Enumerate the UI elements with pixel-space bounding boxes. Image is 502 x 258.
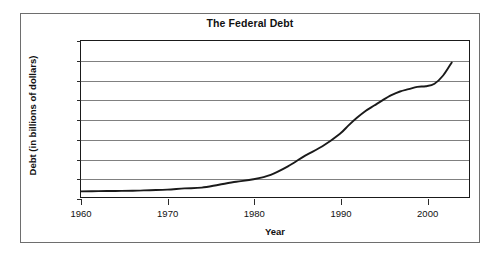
data-series-federal-debt bbox=[81, 41, 469, 197]
x-tick-mark bbox=[428, 199, 429, 205]
gridline bbox=[81, 160, 469, 161]
line-path-federal-debt bbox=[81, 62, 452, 191]
gridline bbox=[81, 140, 469, 141]
y-tick-mark bbox=[77, 160, 81, 161]
plot-area: 010002000300040005000600070008000 196019… bbox=[80, 40, 470, 198]
y-tick-mark bbox=[77, 81, 81, 82]
figure-chart-federal-debt: The Federal Debt Debt (in billions of do… bbox=[0, 0, 502, 258]
gridline bbox=[81, 61, 469, 62]
gridline bbox=[81, 81, 469, 82]
x-tick-label: 1980 bbox=[229, 209, 279, 219]
x-tick-mark bbox=[168, 199, 169, 205]
x-tick-label: 2000 bbox=[403, 209, 453, 219]
y-tick-mark bbox=[77, 179, 81, 180]
x-tick-mark bbox=[81, 199, 82, 205]
x-tick-label: 1960 bbox=[56, 209, 106, 219]
y-tick-mark bbox=[77, 100, 81, 101]
y-tick-mark bbox=[77, 140, 81, 141]
chart-title: The Federal Debt bbox=[20, 17, 480, 29]
y-axis-label: Debt (in billions of dollars) bbox=[27, 36, 38, 196]
gridline bbox=[81, 120, 469, 121]
x-tick-mark bbox=[341, 199, 342, 205]
x-tick-label: 1970 bbox=[143, 209, 193, 219]
gridline bbox=[81, 179, 469, 180]
x-tick-mark bbox=[254, 199, 255, 205]
x-axis-label: Year bbox=[80, 226, 470, 237]
y-tick-mark bbox=[77, 41, 81, 42]
x-tick-label: 1990 bbox=[316, 209, 366, 219]
gridline bbox=[81, 100, 469, 101]
y-tick-mark bbox=[77, 61, 81, 62]
y-tick-mark bbox=[77, 120, 81, 121]
